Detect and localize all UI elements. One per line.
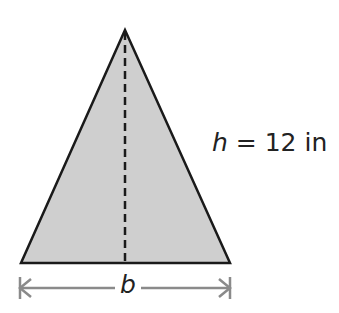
height-value: 12 in — [265, 128, 328, 157]
base-label: b — [120, 270, 136, 299]
height-equals: = — [236, 128, 257, 157]
height-label: h = 12 in — [212, 128, 327, 157]
height-variable: h — [212, 128, 228, 157]
